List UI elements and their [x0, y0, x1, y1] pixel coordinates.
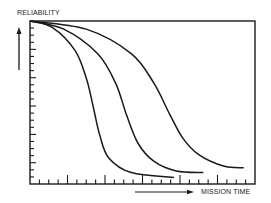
reliability-curve-1	[30, 21, 174, 177]
x-axis-label: MISSION TIME	[201, 188, 250, 195]
reliability-curve-3	[30, 21, 244, 168]
up-arrow-icon	[17, 27, 22, 70]
y-axis-label: RELIABILITY	[17, 9, 60, 16]
x-axis-ticks	[39, 175, 245, 184]
y-axis-ticks	[30, 28, 36, 177]
reliability-chart	[0, 0, 271, 203]
right-arrow-icon	[135, 190, 194, 194]
plot-frame	[30, 21, 255, 184]
reliability-curves	[30, 21, 244, 177]
